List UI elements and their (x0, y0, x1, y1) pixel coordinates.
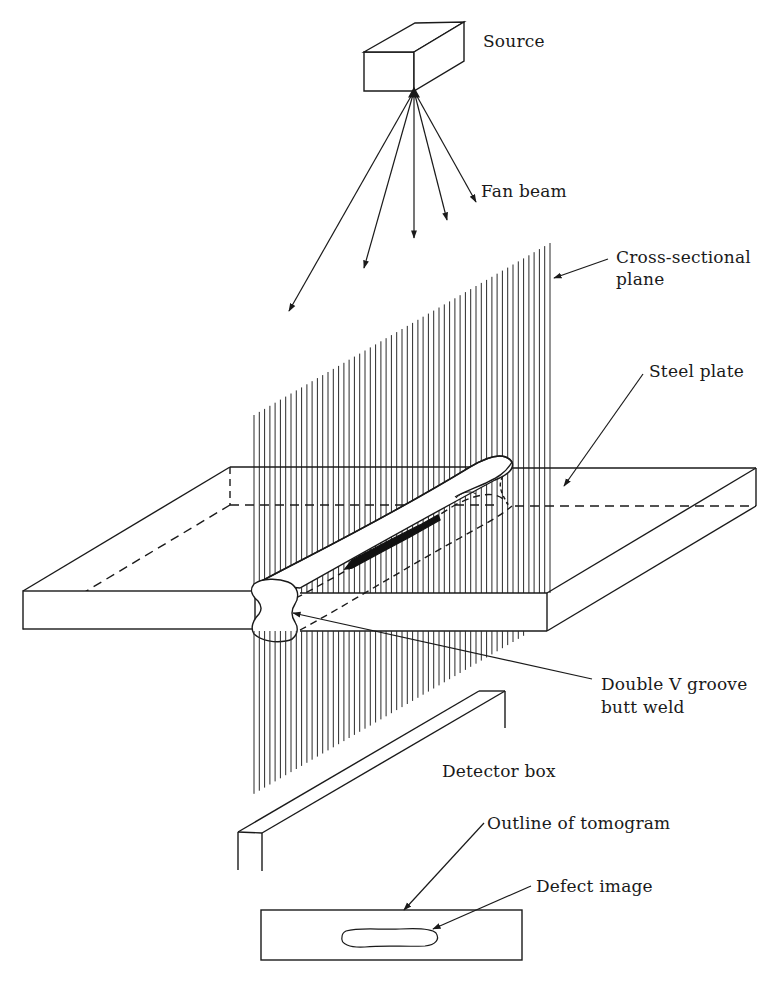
weld-label-line1: Double V groove (601, 673, 747, 695)
defect-image-label: Defect image (536, 875, 653, 897)
detector-box-label: Detector box (442, 760, 556, 782)
fan-beam-rays (289, 88, 476, 311)
diagram-drawing (0, 0, 778, 986)
fan-beam-label: Fan beam (481, 180, 567, 202)
defect-leader (433, 886, 531, 929)
tomogram-outline-label: Outline of tomogram (487, 812, 670, 834)
ct-weld-inspection-diagram: Source Fan beam Cross-sectional plane St… (0, 0, 778, 986)
cross-section-leader (554, 259, 608, 278)
tomogram (261, 910, 522, 960)
x-ray-source (364, 22, 464, 91)
tomogram-leader (404, 823, 484, 910)
source-label: Source (483, 30, 545, 52)
cross-sectional-plane-label-line1: Cross-sectional (616, 246, 751, 268)
weld-label-line2: butt weld (601, 696, 685, 718)
defect-image-blob (342, 929, 438, 948)
steel-plate-label: Steel plate (649, 360, 744, 382)
steel-plate-leader (564, 374, 643, 486)
cross-sectional-plane-label-line2: plane (616, 268, 664, 290)
